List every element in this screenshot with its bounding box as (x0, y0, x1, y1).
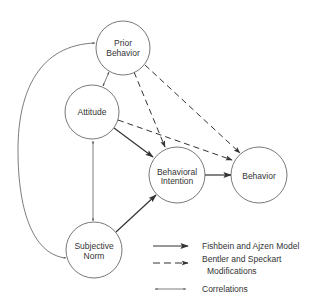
path-diagram: Prior Behavior Attitude Behavioral Inten… (0, 0, 320, 308)
node-label: Attitude (78, 107, 107, 117)
legend-item-dashed: Bentler and Speckart Modifications (153, 254, 282, 276)
node-behavior: Behavior (231, 147, 287, 203)
legend: Fishbein and Ajzen Model Bentler and Spe… (153, 241, 299, 294)
node-prior-behavior: Prior Behavior (96, 21, 150, 75)
legend-item-solid: Fishbein and Ajzen Model (153, 241, 299, 251)
legend-label: Correlations (202, 284, 248, 294)
solid-arrow-attitude-to-intention (114, 128, 153, 157)
node-label: Subjective (74, 241, 113, 251)
node-label: Intention (161, 176, 194, 186)
node-attitude: Attitude (65, 85, 119, 139)
node-label: Prior (114, 38, 132, 48)
node-label: Behavior (242, 171, 276, 181)
dashed-arrow-prior-behavior-to-behavior (145, 65, 240, 153)
node-behavioral-intention: Behavioral Intention (149, 147, 205, 203)
node-label: Behavior (106, 48, 140, 58)
dashed-arrow-prior-behavior-to-intention (134, 72, 165, 147)
legend-item-correlation: Correlations (155, 284, 248, 294)
legend-label: Modifications (207, 266, 257, 276)
node-subjective-norm: Subjective Norm (66, 222, 122, 278)
node-label: Norm (84, 251, 105, 261)
correlation-prior-behavior-attitude (103, 72, 109, 86)
solid-arrow-subjective-norm-to-intention (116, 195, 156, 232)
legend-label: Fishbein and Ajzen Model (202, 241, 299, 251)
legend-label: Bentler and Speckart (202, 254, 282, 264)
